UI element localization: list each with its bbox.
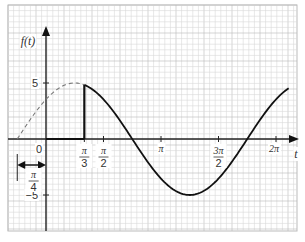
x-tick-label-denominator: 2	[215, 157, 221, 169]
y-tick-label: 5	[32, 77, 38, 89]
x-tick-label: 2π	[269, 143, 280, 154]
chart: f(t)t05−5π3π2π3π22ππ4	[0, 0, 305, 242]
y-axis-label: f(t)	[21, 34, 36, 48]
phase-shift-label-denominator: 4	[31, 181, 37, 193]
x-tick-label-denominator: 2	[100, 157, 106, 169]
grid-frame	[8, 5, 297, 231]
x-tick-label-denominator: 3	[81, 157, 87, 169]
grid	[8, 5, 297, 231]
origin-label: 0	[36, 143, 42, 155]
x-tick-label-numerator: 3π	[212, 145, 224, 156]
